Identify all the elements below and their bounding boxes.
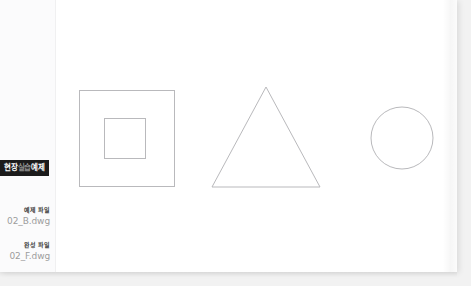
section-banner: 현장실습예제 bbox=[0, 160, 49, 176]
section-banner-text-part-3: 예제 bbox=[31, 164, 45, 172]
completed-file-label: 완성 파일 bbox=[0, 242, 50, 249]
section-banner-text-part-2: 실습 bbox=[18, 164, 32, 172]
circle-shape bbox=[371, 107, 433, 169]
sample-file-label: 예제 파일 bbox=[0, 207, 50, 214]
sample-file-block: 예제 파일 02_B.dwg bbox=[0, 207, 52, 227]
triangle-shape bbox=[212, 87, 320, 187]
page-bottom-edge-shadow bbox=[0, 272, 457, 277]
completed-file-name: 02_F.dwg bbox=[0, 251, 50, 262]
figure-drawing-area bbox=[56, 0, 457, 272]
book-page-sheet: 현장실습예제 예제 파일 02_B.dwg 완성 파일 02_F.dwg bbox=[0, 0, 457, 272]
sample-file-name: 02_B.dwg bbox=[0, 216, 50, 227]
page-margin-column bbox=[0, 0, 56, 272]
completed-file-block: 완성 파일 02_F.dwg bbox=[0, 242, 52, 262]
inner-square-shape bbox=[105, 119, 146, 159]
outer-square-shape bbox=[80, 91, 175, 187]
section-banner-text-part-1: 현장 bbox=[4, 164, 18, 172]
